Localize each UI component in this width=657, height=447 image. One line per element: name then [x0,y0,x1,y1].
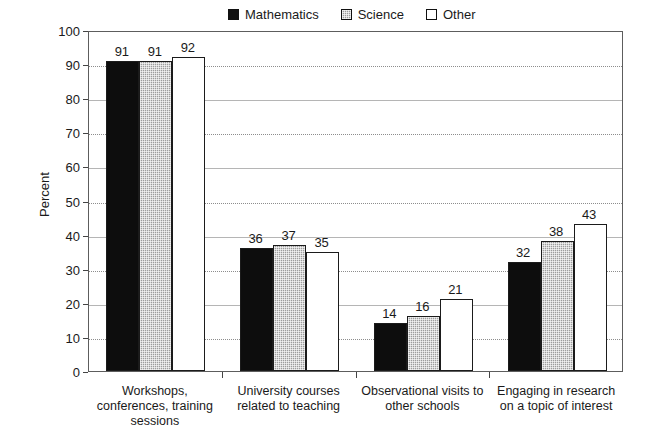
x-axis-category-label: Engaging in research on a topic of inter… [480,384,632,414]
y-axis-tick-label: 60 [50,161,80,174]
bar-science-group-2 [273,245,306,371]
y-axis-tick-label: 20 [50,297,80,310]
bar-mathematics-group-4 [508,262,541,371]
bar-other-group-4 [574,224,607,371]
legend-swatch-science-icon [341,9,352,20]
bar-mathematics-group-2 [240,248,273,371]
x-axis-tick-mark [356,372,357,378]
chart-legend: Mathematics Science Other [228,8,475,21]
bar-value-label: 32 [516,246,530,259]
bar-value-label: 14 [382,307,396,320]
bar-value-label: 35 [314,236,328,249]
bar-value-label: 37 [281,229,295,242]
y-axis-tick-label: 100 [50,25,80,38]
y-axis-tick-label: 0 [50,366,80,379]
x-axis-tick-mark [489,372,490,378]
y-axis-tick-label: 90 [50,59,80,72]
y-axis-tick-label: 50 [50,195,80,208]
bar-mathematics-group-3 [374,323,407,371]
y-axis-tick-mark [83,372,88,373]
bar-value-label: 16 [415,300,429,313]
bar-value-label: 21 [448,283,462,296]
bar-chart: Mathematics Science Other Percent 100908… [0,0,657,447]
x-axis-category-label: University courses related to teaching [213,384,365,414]
bar-value-label: 38 [549,225,563,238]
bar-value-label: 91 [148,45,162,58]
y-axis-tick-label: 10 [50,331,80,344]
legend-swatch-other-icon [426,9,437,20]
legend-swatch-mathematics-icon [228,9,239,20]
bar-mathematics-group-1 [106,61,139,371]
bar-value-label: 92 [181,41,195,54]
legend-entry-other: Other [426,8,476,21]
bar-value-label: 91 [115,45,129,58]
bar-science-group-4 [541,241,574,371]
legend-label-other: Other [443,8,476,21]
bar-value-label: 36 [248,232,262,245]
x-axis-category-label: Workshops, conferences, training session… [79,384,231,429]
y-axis-tick-label: 40 [50,229,80,242]
legend-label-science: Science [358,8,404,21]
bar-value-label: 43 [582,208,596,221]
x-axis-tick-mark [222,372,223,378]
y-axis-tick-label: 30 [50,263,80,276]
y-axis-tick-label: 70 [50,127,80,140]
y-axis-tick-label: 80 [50,93,80,106]
x-axis-category-label: Observational visits to other schools [347,384,499,414]
legend-entry-science: Science [341,8,404,21]
bar-other-group-1 [172,57,205,371]
bar-other-group-2 [306,252,339,371]
legend-entry-mathematics: Mathematics [228,8,319,21]
bar-science-group-3 [407,316,440,371]
bar-science-group-1 [139,61,172,371]
bar-other-group-3 [440,299,473,371]
plot-area [88,31,623,372]
legend-label-mathematics: Mathematics [245,8,319,21]
